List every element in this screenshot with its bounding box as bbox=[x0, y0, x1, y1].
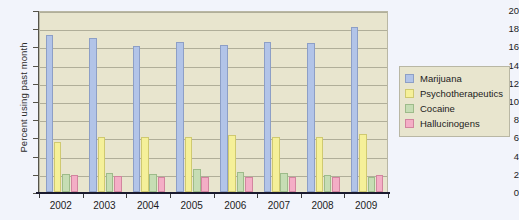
bar-cocaine-2003 bbox=[106, 173, 114, 192]
x-tick-mark-2003 bbox=[83, 194, 84, 198]
legend-item-cocaine[interactable]: Cocaine bbox=[405, 101, 503, 116]
bar-psychotherapeutics-2004 bbox=[141, 137, 149, 192]
bar-psychotherapeutics-2008 bbox=[316, 137, 324, 192]
bar-cocaine-2006 bbox=[237, 172, 245, 192]
bar-hallucinogens-2007 bbox=[289, 177, 297, 192]
bar-chart-figure: Percent using past month 024681012141618… bbox=[0, 0, 519, 220]
y-tick-label-20: 20 bbox=[493, 5, 519, 16]
bar-psychotherapeutics-2007 bbox=[272, 137, 280, 192]
bar-marijuana-2008 bbox=[307, 43, 315, 192]
bar-psychotherapeutics-2005 bbox=[185, 137, 193, 193]
bar-marijuana-2004 bbox=[133, 46, 141, 193]
legend-swatch-cocaine bbox=[405, 104, 414, 113]
bar-psychotherapeutics-2003 bbox=[98, 137, 106, 192]
legend-item-hallucinogens[interactable]: Hallucinogens bbox=[405, 116, 503, 131]
legend-swatch-hallucinogens bbox=[405, 119, 414, 128]
x-tick-label-2009: 2009 bbox=[338, 200, 394, 211]
x-tick-mark-2006 bbox=[214, 194, 215, 198]
x-tick-mark-2004 bbox=[126, 194, 127, 198]
bar-marijuana-2002 bbox=[46, 35, 54, 192]
legend-item-psychotherapeutics[interactable]: Psychotherapeutics bbox=[405, 86, 503, 101]
legend-swatch-marijuana bbox=[405, 74, 414, 83]
y-tick-label-18: 18 bbox=[493, 23, 519, 34]
bar-hallucinogens-2009 bbox=[376, 175, 384, 192]
bar-hallucinogens-2003 bbox=[114, 176, 122, 192]
gridline-20 bbox=[40, 12, 387, 13]
bar-cocaine-2004 bbox=[149, 174, 157, 192]
y-axis-title: Percent using past month bbox=[18, 23, 29, 173]
bar-marijuana-2006 bbox=[220, 45, 228, 192]
bar-marijuana-2009 bbox=[351, 27, 359, 192]
legend-label-hallucinogens: Hallucinogens bbox=[420, 118, 480, 129]
chart-legend: MarijuanaPsychotherapeuticsCocaineHalluc… bbox=[399, 66, 510, 137]
legend-label-psychotherapeutics: Psychotherapeutics bbox=[420, 88, 503, 99]
bar-marijuana-2003 bbox=[89, 38, 97, 192]
bar-hallucinogens-2006 bbox=[245, 177, 253, 192]
y-tick-label-16: 16 bbox=[493, 41, 519, 52]
x-tick-mark-2009 bbox=[344, 194, 345, 198]
bar-psychotherapeutics-2009 bbox=[359, 134, 367, 192]
x-tick-mark-end bbox=[388, 194, 389, 198]
x-tick-mark-2007 bbox=[257, 194, 258, 198]
bar-cocaine-2005 bbox=[193, 169, 201, 192]
bar-hallucinogens-2002 bbox=[71, 175, 79, 192]
gridline-18 bbox=[40, 30, 387, 31]
bar-cocaine-2008 bbox=[324, 175, 332, 192]
y-tick-label-0: 0 bbox=[493, 187, 519, 198]
plot-area bbox=[39, 11, 388, 193]
x-tick-mark-2008 bbox=[301, 194, 302, 198]
bar-hallucinogens-2005 bbox=[201, 177, 209, 192]
bar-psychotherapeutics-2006 bbox=[228, 135, 236, 192]
bar-hallucinogens-2008 bbox=[332, 177, 340, 192]
legend-item-marijuana[interactable]: Marijuana bbox=[405, 71, 503, 86]
bar-cocaine-2002 bbox=[62, 174, 70, 192]
y-axis-line bbox=[38, 11, 39, 194]
legend-label-marijuana: Marijuana bbox=[420, 73, 462, 84]
legend-label-cocaine: Cocaine bbox=[420, 103, 455, 114]
y-tick-label-4: 4 bbox=[493, 151, 519, 162]
bar-cocaine-2007 bbox=[280, 173, 288, 192]
y-tick-label-2: 2 bbox=[493, 169, 519, 180]
bar-cocaine-2009 bbox=[368, 177, 376, 192]
x-tick-mark-2005 bbox=[170, 194, 171, 198]
bar-psychotherapeutics-2002 bbox=[54, 142, 62, 192]
bar-marijuana-2007 bbox=[264, 42, 272, 192]
bar-hallucinogens-2004 bbox=[158, 177, 166, 192]
x-tick-mark-2002 bbox=[39, 194, 40, 198]
bar-marijuana-2005 bbox=[176, 42, 184, 192]
legend-swatch-psychotherapeutics bbox=[405, 89, 414, 98]
